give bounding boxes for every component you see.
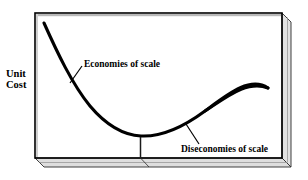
economies-leader-line — [70, 66, 82, 83]
frame-left-bevel — [36, 14, 38, 157]
y-axis-label-line-1: Unit — [6, 68, 26, 79]
diseconomies-of-scale-label: Diseconomies of scale — [181, 145, 268, 155]
diseconomies-leader-line — [186, 124, 199, 144]
y-axis-label: Unit Cost — [6, 68, 26, 90]
economies-of-scale-diagram: Unit Cost Economies of scale Diseconomie… — [0, 0, 308, 180]
frame-top-bevel — [36, 14, 281, 16]
cost-curve — [44, 23, 268, 136]
frame-right-extrusion — [282, 13, 291, 167]
y-axis-label-line-2: Cost — [6, 79, 26, 90]
economies-of-scale-label: Economies of scale — [84, 60, 160, 70]
